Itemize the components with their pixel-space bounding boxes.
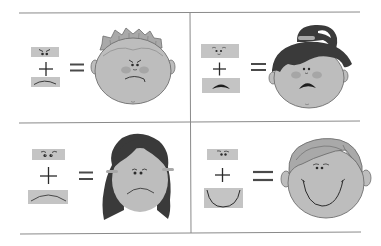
plus-symbol	[213, 63, 226, 76]
panel-happy	[204, 139, 371, 218]
plus-symbol	[215, 168, 230, 182]
equals-symbol	[253, 172, 273, 180]
equals-symbol	[70, 65, 84, 71]
mouth-swatch-scared	[202, 78, 240, 93]
emotion-worksheet	[0, 0, 381, 246]
eyes-swatch-angry	[31, 47, 59, 57]
face-angry-boy	[91, 28, 175, 104]
equals-symbol	[79, 173, 93, 180]
mouth-swatch-sad	[28, 190, 68, 204]
face-happy-boy	[281, 139, 371, 218]
mouth-swatch-happy	[204, 188, 243, 208]
panel-sad	[28, 134, 174, 220]
top-rule	[19, 12, 360, 13]
plus-symbol	[39, 62, 53, 76]
vertical-divider	[190, 12, 191, 233]
middle-rule	[19, 121, 360, 123]
face-scared-girl	[269, 25, 352, 108]
face-sad-girl	[103, 134, 175, 220]
eyes-swatch-sad	[32, 149, 65, 160]
panel-scared	[201, 25, 352, 108]
mouth-swatch-angry	[31, 77, 60, 87]
eyes-swatch-scared	[201, 44, 239, 58]
equals-symbol	[251, 64, 266, 70]
plus-symbol	[40, 167, 57, 184]
panel-angry	[31, 28, 175, 104]
eyes-swatch-happy	[207, 149, 238, 160]
